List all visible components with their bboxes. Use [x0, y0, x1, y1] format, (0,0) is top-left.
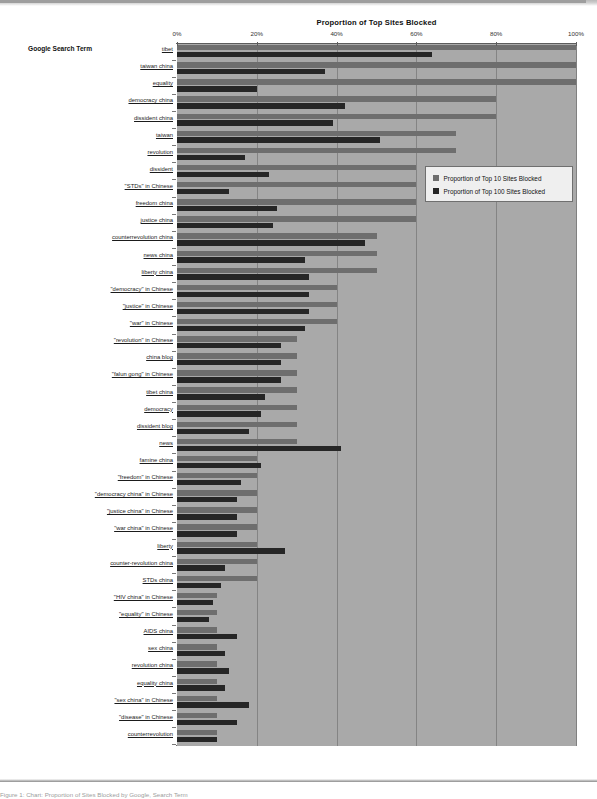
- bar-top10: [177, 679, 217, 684]
- bar-top100: [177, 309, 309, 314]
- category-label: AIDS china: [144, 628, 173, 634]
- bar-top10: [177, 473, 257, 478]
- bar-group: [177, 300, 576, 317]
- bar-top10: [177, 199, 416, 204]
- bar-group: [177, 540, 576, 557]
- category-label: tibet: [162, 46, 173, 52]
- legend-label: Proportion of Top 10 Sites Blocked: [444, 175, 542, 182]
- y-tick-mark: [172, 145, 176, 146]
- bar-top10: [177, 696, 217, 701]
- y-tick-mark: [172, 505, 176, 506]
- x-tick-label-80: 80%: [490, 30, 502, 37]
- bar-top100: [177, 274, 309, 279]
- category-label: equality china: [137, 680, 173, 686]
- y-tick-mark: [172, 197, 176, 198]
- y-tick-mark: [172, 471, 176, 472]
- category-label: democracy china: [128, 97, 173, 103]
- bar-top10: [177, 490, 257, 495]
- bar-top10: [177, 644, 217, 649]
- bar-group: [177, 352, 576, 369]
- bar-group: [177, 557, 576, 574]
- y-tick-mark: [172, 248, 176, 249]
- y-tick-mark: [172, 607, 176, 608]
- y-tick-mark: [172, 402, 176, 403]
- category-label: "democracy china" in Chinese: [95, 491, 173, 497]
- bar-top100: [177, 668, 229, 673]
- bar-top100: [177, 514, 237, 519]
- bar-group: [177, 44, 576, 61]
- x-tick-label-100: 100%: [568, 30, 584, 37]
- bar-top10: [177, 456, 257, 461]
- y-tick-mark: [172, 573, 176, 574]
- bar-top10: [177, 730, 217, 735]
- bar-group: [177, 112, 576, 129]
- bar-top10: [177, 593, 217, 598]
- bar-top100: [177, 377, 281, 382]
- y-tick-mark: [172, 436, 176, 437]
- category-label: famine china: [140, 457, 173, 463]
- x-tick-label-0: 0%: [173, 30, 182, 37]
- bar-top10: [177, 507, 257, 512]
- y-tick-mark: [172, 111, 176, 112]
- bar-top100: [177, 480, 241, 485]
- y-tick-mark: [172, 693, 176, 694]
- bar-group: [177, 283, 576, 300]
- bar-top100: [177, 446, 341, 451]
- bar-top100: [177, 326, 305, 331]
- bar-group: [177, 711, 576, 728]
- y-tick-mark: [172, 539, 176, 540]
- bar-group: [177, 420, 576, 437]
- bar-top100: [177, 685, 225, 690]
- x-tick-label-20: 20%: [251, 30, 263, 37]
- y-tick-mark: [172, 642, 176, 643]
- y-tick-mark: [172, 299, 176, 300]
- bar-top100: [177, 69, 325, 74]
- bar-group: [177, 728, 576, 745]
- bar-top100: [177, 463, 261, 468]
- x-tick-mark: [496, 42, 497, 46]
- y-tick-mark: [172, 556, 176, 557]
- bar-top10: [177, 559, 257, 564]
- bar-group: [177, 317, 576, 334]
- legend-item[interactable]: Proportion of Top 100 Sites Blocked: [433, 185, 545, 197]
- y-tick-mark: [172, 488, 176, 489]
- bar-top100: [177, 292, 309, 297]
- bar-top100: [177, 634, 237, 639]
- legend-item[interactable]: Proportion of Top 10 Sites Blocked: [433, 172, 541, 184]
- bar-top100: [177, 411, 261, 416]
- y-tick-mark: [172, 179, 176, 180]
- bar-group: [177, 335, 576, 352]
- bar-top100: [177, 429, 249, 434]
- bar-top100: [177, 600, 213, 605]
- y-tick-mark: [172, 659, 176, 660]
- category-label: democracy: [144, 406, 173, 412]
- bar-group: [177, 454, 576, 471]
- category-label: "justice" in Chinese: [123, 303, 173, 309]
- bar-top10: [177, 285, 337, 290]
- y-tick-mark: [172, 744, 176, 745]
- legend-swatch-icon: [433, 188, 439, 194]
- category-label: counterrevolution: [128, 731, 173, 737]
- legend-swatch-icon: [433, 175, 439, 181]
- bar-group: [177, 403, 576, 420]
- y-tick-mark: [172, 214, 176, 215]
- bar-top100: [177, 86, 257, 91]
- category-label: counter-revolution china: [110, 560, 173, 566]
- bar-top100: [177, 548, 285, 553]
- bar-group: [177, 574, 576, 591]
- y-tick-mark: [172, 162, 176, 163]
- bar-group: [177, 489, 576, 506]
- x-tick-mark: [257, 42, 258, 46]
- bar-group: [177, 523, 576, 540]
- y-tick-mark: [172, 590, 176, 591]
- bar-group: [177, 626, 576, 643]
- bar-top10: [177, 96, 496, 101]
- bar-group: [177, 61, 576, 78]
- category-label: dissident china: [134, 115, 173, 121]
- y-tick-mark: [172, 351, 176, 352]
- gridline-100: [576, 44, 577, 746]
- bar-top10: [177, 542, 257, 547]
- category-label: "HIV china" in Chinese: [114, 594, 173, 600]
- chart-legend[interactable]: Proportion of Top 10 Sites BlockedPropor…: [425, 166, 573, 202]
- bar-top100: [177, 206, 277, 211]
